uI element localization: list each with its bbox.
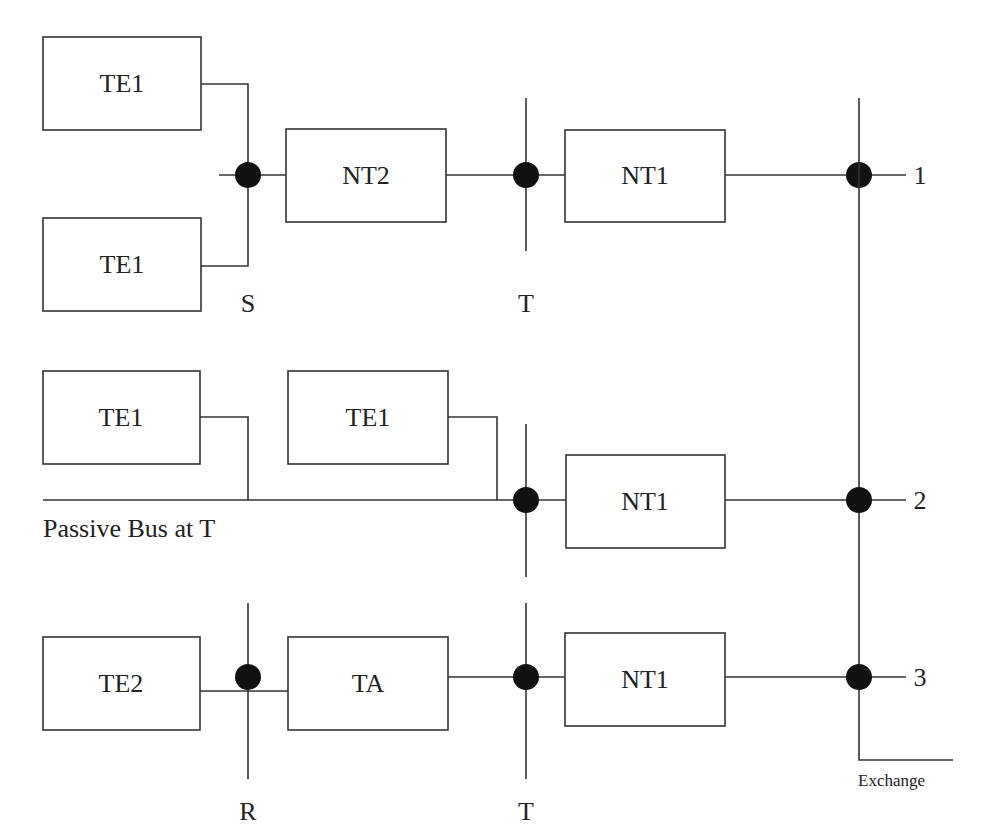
row-3: TE2 R TA T NT1 3 [43, 603, 927, 826]
label-nt2: NT2 [342, 161, 390, 190]
wire-te1-b-to-bus [448, 417, 497, 500]
label-te1-bus-a: TE1 [99, 403, 144, 432]
row-1: TE1 TE1 S NT2 T NT1 1 [43, 37, 927, 318]
label-nt1-row2: NT1 [621, 487, 669, 516]
node-t-row1 [513, 162, 539, 188]
label-te1-top: TE1 [100, 69, 145, 98]
node-line-3 [846, 664, 872, 690]
row-2: TE1 TE1 Passive Bus at T NT1 2 [43, 371, 927, 577]
node-line-2 [846, 487, 872, 513]
label-nt1-row3: NT1 [621, 665, 669, 694]
label-te2: TE2 [99, 669, 144, 698]
node-t-row3 [513, 664, 539, 690]
label-s: S [241, 289, 255, 318]
label-r: R [239, 797, 257, 826]
label-t-row1: T [518, 289, 534, 318]
node-r [235, 664, 261, 690]
label-exchange: Exchange [858, 771, 925, 790]
label-te1-bottom: TE1 [100, 250, 145, 279]
label-line-2: 2 [914, 486, 927, 515]
label-ta: TA [352, 669, 385, 698]
label-nt1-row1: NT1 [621, 161, 669, 190]
wire-te1-a-to-bus [200, 417, 248, 500]
wire-exchange-trunk [859, 98, 953, 760]
label-line-3: 3 [914, 663, 927, 692]
label-passive-bus: Passive Bus at T [43, 514, 215, 543]
node-s [235, 162, 261, 188]
isdn-reference-diagram: TE1 TE1 S NT2 T NT1 1 Exchange TE1 TE1 P… [0, 0, 990, 829]
label-t-row3: T [518, 797, 534, 826]
node-t-row2 [513, 487, 539, 513]
label-line-1: 1 [914, 161, 927, 190]
label-te1-bus-b: TE1 [346, 403, 391, 432]
